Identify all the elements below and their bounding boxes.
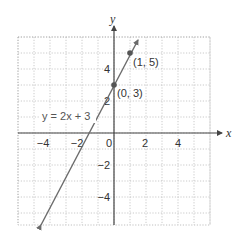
x-axis-label: x	[225, 126, 232, 140]
x-tick-label: 4	[175, 137, 181, 149]
y-tick-label: −2	[97, 159, 110, 171]
y-tick-label: 4	[104, 63, 110, 75]
x-tick-label: −4	[37, 137, 50, 149]
point-label-0-3: (0, 3)	[117, 87, 143, 99]
y-tick-label: 2	[104, 95, 110, 107]
y-tick-label: −4	[97, 191, 110, 203]
coordinate-plane: x y −4 −2 0 2 4 4 2 −2 −4 (0, 3) (1, 5) …	[0, 0, 238, 240]
point-1-5	[127, 50, 133, 56]
point-0-3	[111, 82, 117, 88]
point-label-1-5: (1, 5)	[133, 56, 159, 68]
origin-label: 0	[106, 137, 112, 149]
y-axis-label: y	[109, 12, 116, 26]
x-tick-label: 2	[142, 137, 148, 149]
equation-label: y = 2x + 3	[42, 110, 90, 122]
